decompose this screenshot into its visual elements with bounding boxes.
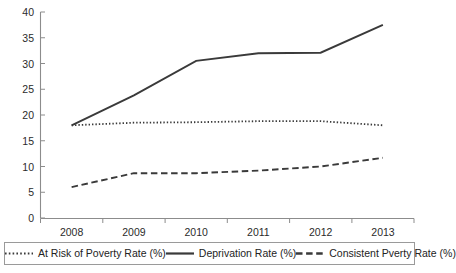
y-tick-label: 35 xyxy=(22,32,34,44)
series-line-consistent-poverty-rate xyxy=(72,158,383,187)
plot-area: 40 35 30 25 20 15 10 5 0 xyxy=(0,0,421,240)
dashed-line-swatch-icon xyxy=(296,249,324,258)
chart-legend: At Risk of Poverty Rate (%) Deprivation … xyxy=(4,242,415,265)
x-tick-label: 2011 xyxy=(247,226,270,238)
y-tick-label: 40 xyxy=(22,6,34,18)
legend-entry-consistent-poverty-rate: Consistent Pverty Rate (%) xyxy=(296,248,456,259)
y-axis xyxy=(41,12,46,218)
legend-label: Deprivation Rate (%) xyxy=(199,248,296,259)
y-tick-label: 5 xyxy=(28,186,34,198)
series-line-at-risk-of-poverty-rate xyxy=(72,121,383,125)
x-tick-label: 2010 xyxy=(185,226,209,238)
y-tick-label: 0 xyxy=(28,212,34,224)
y-tick-label: 25 xyxy=(22,83,34,95)
x-axis xyxy=(41,219,415,224)
legend-label: At Risk of Poverty Rate (%) xyxy=(38,248,166,259)
x-tick-label: 2008 xyxy=(60,226,84,238)
x-tick-label: 2009 xyxy=(122,226,146,238)
y-tick-label: 15 xyxy=(22,135,34,147)
x-tick-label: 2013 xyxy=(371,226,395,238)
y-tick-label: 30 xyxy=(22,58,34,70)
x-axis-tick-labels: 2008 2009 2010 2011 2012 2013 xyxy=(60,226,395,238)
legend-label: Consistent Pverty Rate (%) xyxy=(329,248,456,259)
legend-entry-at-risk-of-poverty-rate: At Risk of Poverty Rate (%) xyxy=(5,248,166,259)
data-series-group xyxy=(72,25,383,187)
legend-entry-deprivation-rate: Deprivation Rate (%) xyxy=(166,248,296,259)
x-tick-label: 2012 xyxy=(309,226,333,238)
y-tick-label: 20 xyxy=(22,109,34,121)
y-tick-label: 10 xyxy=(22,161,34,173)
solid-line-swatch-icon xyxy=(166,249,194,258)
series-line-deprivation-rate xyxy=(72,25,383,125)
y-axis-tick-labels: 40 35 30 25 20 15 10 5 0 xyxy=(22,6,34,224)
dotted-line-swatch-icon xyxy=(5,249,33,258)
